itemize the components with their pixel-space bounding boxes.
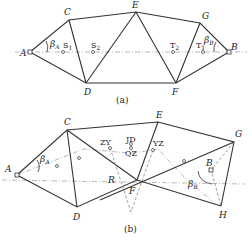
zy-label: ZY [100, 138, 112, 147]
point-h-b: H [218, 210, 227, 220]
point-g-b: G [235, 129, 242, 139]
point-a: A [19, 48, 27, 58]
s2-label: S2 [91, 41, 100, 51]
point-e-b: E [155, 110, 163, 120]
caption-a: (a) [116, 95, 128, 105]
beta-a-label: βA [49, 39, 60, 50]
point-c: C [64, 7, 71, 17]
point-f: F [171, 87, 179, 97]
point-d: D [83, 87, 91, 97]
s1-label: S1 [63, 41, 72, 51]
t2-label: T2 [170, 41, 179, 51]
beta-a-label-b: βA [39, 154, 50, 165]
figure-a-labels: A B C D E F G βA S1 S2 T2 T1 βB (a) [19, 0, 238, 105]
yz-label: YZ [152, 139, 164, 148]
jd-label: JD [125, 135, 136, 144]
point-e: E [131, 0, 139, 10]
caption-b: (b) [124, 224, 137, 234]
point-d-b: D [72, 212, 80, 222]
point-a-b: A [4, 164, 12, 174]
point-b-b: B [205, 158, 213, 168]
qz-label: QZ [125, 149, 138, 158]
beta-b-label-b: βB [187, 179, 198, 190]
survey-network-diagram: A B C D E F G βA S1 S2 T2 T1 βB (a) [0, 0, 252, 244]
point-f-b: F [128, 186, 136, 196]
figure-b-labels: A B C D E F G H R βA βB ZY JD QZ YZ (b) [4, 110, 242, 234]
point-r-b: R [107, 175, 115, 185]
beta-b-label: βB [203, 35, 214, 46]
point-g: G [202, 11, 209, 21]
point-b: B [230, 42, 238, 52]
point-c-b: C [64, 117, 71, 127]
